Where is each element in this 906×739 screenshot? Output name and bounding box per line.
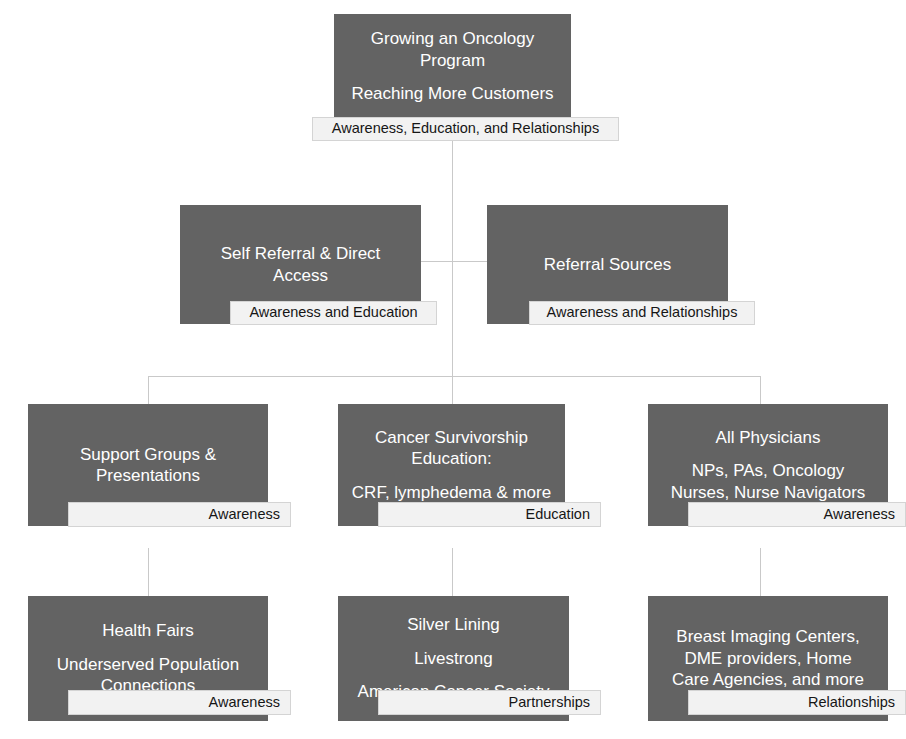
connector-level4-drop-right bbox=[760, 548, 761, 596]
sublabel-referral-sources-text: Awareness and Relationships bbox=[547, 305, 738, 321]
node-self-referral-line-1: Self Referral & Direct bbox=[186, 243, 415, 264]
node-referral-sources-line-1: Referral Sources bbox=[493, 254, 722, 275]
node-survivorship-education-line-1: Cancer Survivorship bbox=[344, 427, 559, 448]
sublabel-self-referral-text: Awareness and Education bbox=[249, 305, 417, 321]
sublabel-partners[interactable]: Partnerships bbox=[378, 690, 601, 715]
node-support-groups-line-1: Support Groups & bbox=[34, 444, 262, 465]
sublabel-partners-text: Partnerships bbox=[509, 695, 590, 711]
sublabel-survivorship-education-text: Education bbox=[526, 507, 591, 523]
node-self-referral-line-2: Access bbox=[186, 265, 415, 286]
connector-level2-to-level3-vertical bbox=[452, 232, 453, 376]
node-survivorship-education-line-3: CRF, lymphedema & more bbox=[344, 482, 559, 503]
sublabel-support-groups[interactable]: Awareness bbox=[68, 502, 291, 527]
node-vendors-line-1: Breast Imaging Centers, bbox=[654, 626, 882, 647]
sublabel-support-groups-text: Awareness bbox=[209, 507, 280, 523]
sublabel-vendors[interactable]: Relationships bbox=[688, 690, 906, 715]
node-health-fairs-line-1: Health Fairs bbox=[34, 620, 262, 641]
sublabel-self-referral[interactable]: Awareness and Education bbox=[230, 301, 437, 325]
sublabel-referral-sources[interactable]: Awareness and Relationships bbox=[529, 301, 755, 325]
sublabel-all-physicians[interactable]: Awareness bbox=[688, 502, 906, 527]
node-root-line-3: Reaching More Customers bbox=[340, 83, 565, 104]
connector-root-vertical bbox=[452, 141, 453, 232]
node-health-fairs-line-2: Underserved Population bbox=[34, 654, 262, 675]
node-support-groups-line-2: Presentations bbox=[34, 465, 262, 486]
sublabel-root-text: Awareness, Education, and Relationships bbox=[332, 121, 599, 137]
connector-level4-drop-center bbox=[452, 548, 453, 596]
node-all-physicians-line-3: Nurses, Nurse Navigators bbox=[654, 482, 882, 503]
node-all-physicians-line-1: All Physicians bbox=[654, 427, 882, 448]
connector-level3-drop-left bbox=[148, 376, 149, 406]
sublabel-all-physicians-text: Awareness bbox=[824, 507, 895, 523]
node-vendors-line-2: DME providers, Home bbox=[654, 648, 882, 669]
node-all-physicians-line-2: NPs, PAs, Oncology bbox=[654, 460, 882, 481]
node-partners-line-1: Silver Lining bbox=[344, 614, 563, 635]
connector-level3-drop-center bbox=[452, 376, 453, 406]
node-root-line-1: Growing an Oncology bbox=[340, 28, 565, 49]
sublabel-health-fairs-text: Awareness bbox=[209, 695, 280, 711]
sublabel-health-fairs[interactable]: Awareness bbox=[68, 690, 291, 715]
sublabel-root[interactable]: Awareness, Education, and Relationships bbox=[312, 117, 619, 141]
connector-level3-horizontal bbox=[148, 376, 760, 377]
node-root[interactable]: Growing an Oncology Program Reaching Mor… bbox=[334, 14, 571, 119]
node-survivorship-education-line-2: Education: bbox=[344, 448, 559, 469]
sublabel-survivorship-education[interactable]: Education bbox=[378, 502, 601, 527]
node-partners-line-2: Livestrong bbox=[344, 648, 563, 669]
connector-level3-drop-right bbox=[760, 376, 761, 406]
connector-level4-drop-left bbox=[148, 548, 149, 596]
node-root-line-2: Program bbox=[340, 50, 565, 71]
sublabel-vendors-text: Relationships bbox=[808, 695, 895, 711]
diagram-canvas: Growing an Oncology Program Reaching Mor… bbox=[0, 0, 906, 739]
node-vendors-line-3: Care Agencies, and more bbox=[654, 669, 882, 690]
